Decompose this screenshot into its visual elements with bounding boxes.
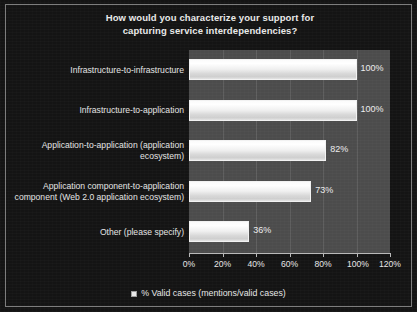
x-axis-label-0: 0%	[183, 259, 195, 269]
x-axis-tick-0	[189, 253, 190, 257]
bar-value-infrastructure-to-infrastructure: 100%	[361, 63, 384, 73]
bar-value-infrastructure-to-application: 100%	[361, 104, 384, 114]
x-axis-tick-80	[323, 253, 324, 257]
x-axis-tick-60	[290, 253, 291, 257]
x-axis-label-120: 120%	[379, 259, 401, 269]
category-label-application-component-to-application-component: Application component-to-application com…	[6, 172, 184, 213]
category-label-text: Application-to-application (application …	[6, 140, 184, 163]
x-axis-tick-20	[223, 253, 224, 257]
category-label-infrastructure-to-application: Infrastructure-to-application	[6, 91, 184, 132]
x-axis-label-20: 20%	[214, 259, 231, 269]
bar-value-application-component-to-application-component: 73%	[315, 185, 333, 195]
category-label-infrastructure-to-infrastructure: Infrastructure-to-infrastructure	[6, 50, 184, 91]
chart-legend: % Valid cases (mentions/valid cases)	[0, 288, 417, 298]
plot-area: 100% 100% 82% 73% 36%	[189, 50, 390, 253]
x-axis-label-80: 80%	[314, 259, 331, 269]
chart-title-line-2: capturing service interdependencies?	[60, 24, 360, 37]
category-label-text: Infrastructure-to-application	[79, 105, 184, 117]
x-axis-tick-120	[390, 253, 391, 257]
bar-application-component-to-application-component[interactable]	[189, 181, 311, 202]
x-axis-tick-40	[256, 253, 257, 257]
category-label-text: Infrastructure-to-infrastructure	[70, 65, 184, 77]
category-label-text: Other (please specify)	[100, 227, 184, 239]
bar-infrastructure-to-infrastructure[interactable]	[189, 59, 357, 80]
bar-row	[189, 212, 390, 253]
legend-label: % Valid cases (mentions/valid cases)	[141, 288, 286, 298]
bar-infrastructure-to-application[interactable]	[189, 100, 357, 121]
bar-value-application-to-application: 82%	[330, 144, 348, 154]
bar-row	[189, 131, 390, 172]
x-axis-label-60: 60%	[281, 259, 298, 269]
chart-title: How would you characterize your support …	[60, 11, 360, 37]
bar-application-to-application[interactable]	[189, 140, 326, 161]
category-label-application-to-application: Application-to-application (application …	[6, 131, 184, 172]
chart-screenshot: How would you characterize your support …	[0, 0, 417, 312]
bar-value-other: 36%	[253, 225, 271, 235]
category-label-text: Application component-to-application com…	[6, 181, 184, 204]
x-axis-label-100: 100%	[347, 259, 369, 269]
x-axis-label-40: 40%	[247, 259, 264, 269]
chart-title-line-1: How would you characterize your support …	[60, 11, 360, 24]
x-axis-tick-100	[357, 253, 358, 257]
bar-other[interactable]	[189, 221, 249, 242]
bar-row	[189, 172, 390, 213]
category-label-other: Other (please specify)	[6, 212, 184, 253]
legend-swatch-icon	[131, 291, 137, 297]
